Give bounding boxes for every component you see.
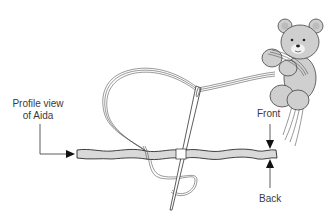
front-arrow (266, 124, 274, 149)
profile-view-label-line1: Profile view (2, 98, 74, 110)
back-label: Back (259, 193, 281, 205)
front-label: Front (257, 108, 280, 120)
profile-callout-arrow (40, 124, 75, 158)
profile-view-label: Profile view of Aida (2, 98, 74, 122)
profile-view-label-line2: of Aida (2, 110, 74, 122)
back-arrow (266, 159, 274, 188)
needle (170, 86, 201, 210)
teddy-bear (262, 19, 323, 110)
aida-fabric-profile (77, 149, 277, 160)
